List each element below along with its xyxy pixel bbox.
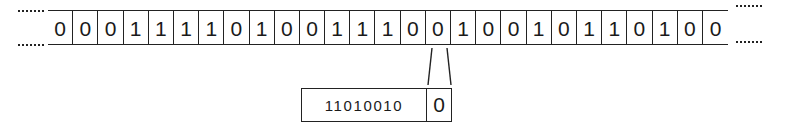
shift-register: 11010010 0 bbox=[301, 88, 452, 122]
register-bits: 11010010 bbox=[302, 89, 427, 121]
register-new-bit: 0 bbox=[427, 89, 451, 121]
